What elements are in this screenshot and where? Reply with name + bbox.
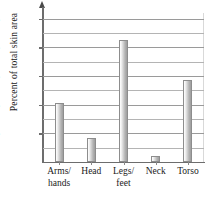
y-axis-tick [39, 19, 43, 20]
bar [119, 40, 128, 162]
bar [55, 103, 64, 162]
bar [183, 80, 192, 162]
x-axis-tick [124, 161, 125, 165]
x-axis-tick [59, 161, 60, 165]
y-axis-title: Percent of total skin area [9, 0, 19, 132]
x-axis-category-label: Head [81, 166, 101, 178]
x-axis-category-label: Neck [146, 166, 166, 178]
y-axis-tick [39, 105, 43, 106]
x-axis-category-label: Legs/ feet [113, 166, 134, 189]
x-axis-tick [91, 161, 92, 165]
x-axis-tick [188, 161, 189, 165]
x-axis-category-label: Torso [177, 166, 199, 178]
y-axis-tick [39, 47, 43, 48]
x-axis-category-label: Arms/ hands [47, 166, 71, 189]
x-axis-tick [156, 161, 157, 165]
bar-chart: Percent of total skin area 10%20%30%40%5… [0, 0, 213, 197]
y-axis-tick [39, 133, 43, 134]
gridline [43, 33, 204, 34]
gridline [43, 19, 204, 20]
y-axis-tick [39, 76, 43, 77]
bar [87, 138, 96, 162]
plot-area [43, 13, 204, 162]
